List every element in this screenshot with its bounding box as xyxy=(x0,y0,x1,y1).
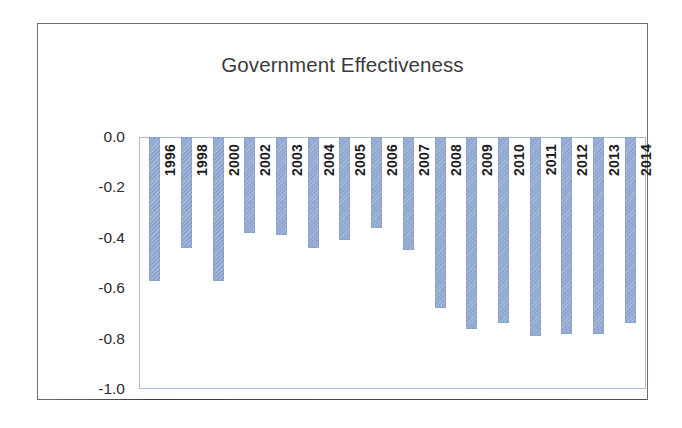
y-axis-tick-label: -0.4 xyxy=(79,229,125,247)
bar xyxy=(308,137,319,248)
bar xyxy=(213,137,224,281)
y-axis-tick-label: -1.0 xyxy=(79,380,125,398)
bar xyxy=(466,137,477,329)
bar xyxy=(435,137,446,308)
bar xyxy=(593,137,604,334)
chart-title: Government Effectiveness xyxy=(38,53,647,77)
bar xyxy=(625,137,636,323)
y-axis-tick-label: -0.6 xyxy=(79,279,125,297)
bar xyxy=(530,137,541,336)
bar xyxy=(561,137,572,334)
scanned-page-frame: Government Effectiveness 0.0-0.2-0.4-0.6… xyxy=(37,23,648,400)
y-axis-tick-label: -0.2 xyxy=(79,178,125,196)
bar xyxy=(339,137,350,240)
bar xyxy=(371,137,382,228)
bar xyxy=(276,137,287,235)
bar xyxy=(181,137,192,248)
y-axis-tick-label: 0.0 xyxy=(79,128,125,146)
chart-plot-wrapper: 0.0-0.2-0.4-0.6-0.8-1.0 1996199820002002… xyxy=(139,137,646,389)
bar xyxy=(244,137,255,233)
bar xyxy=(149,137,160,281)
y-axis-tick-label: -0.8 xyxy=(79,330,125,348)
bar xyxy=(498,137,509,323)
bar xyxy=(403,137,414,250)
